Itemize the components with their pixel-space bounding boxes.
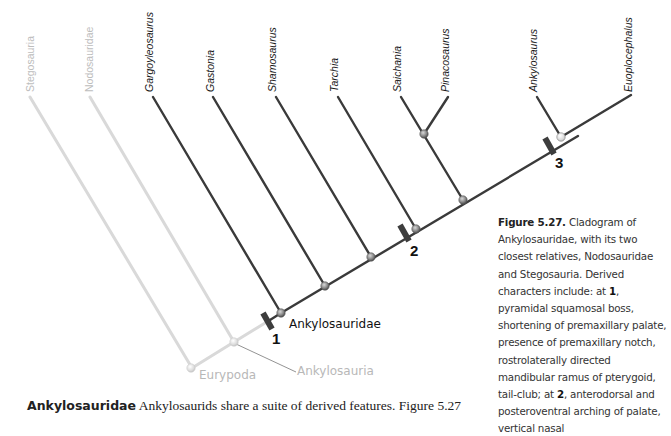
clade-label-ankylosauria: Ankylosauria: [297, 364, 374, 378]
section-heading: Ankylosauridae: [27, 398, 136, 413]
taxon-label: Ankylosaurus: [527, 28, 539, 93]
branch-ankylosaurus-euoplocephalus: [561, 95, 631, 137]
taxon-label: Stegosauria: [24, 36, 36, 92]
taxon-label: Tarchia: [328, 58, 340, 92]
branch-tarchia: [338, 97, 416, 229]
paragraph-text: Ankylosaurids share a suite of derived f…: [136, 398, 461, 413]
node-ankylosaurus-euoplocephalus: [557, 133, 565, 141]
character-number-3: 3: [555, 154, 563, 171]
taxon-label: Gastonia: [204, 50, 216, 92]
branch-ankylosaurus: [537, 97, 561, 137]
character-mark-2: [400, 225, 409, 241]
character-number-1: 1: [272, 330, 280, 347]
node-ankylosauria: [230, 338, 238, 346]
clade-label-ankylosauridae: Ankylosauridae: [289, 317, 381, 331]
character-number-2: 2: [410, 242, 418, 259]
node-3: [367, 253, 375, 261]
branch-stegosauria: [30, 97, 192, 368]
taxon-label: Nodosauridae: [83, 26, 95, 92]
node-ankylosauridae: [277, 309, 285, 317]
character-mark-1: [263, 313, 272, 329]
branch-shamosaurus: [276, 97, 371, 257]
caption-text: Cladogram of Ankylosauridae, with its tw…: [498, 216, 653, 297]
figure-caption: Figure 5.27. Cladogram of Ankylosauridae…: [498, 214, 670, 436]
branch-pinacosaurus: [424, 97, 448, 134]
taxon-label: Shamosaurus: [266, 26, 278, 92]
branch-saichania: [401, 97, 463, 200]
taxon-label: Gargoyleosaurus: [143, 11, 155, 92]
node-saichania-pinacosaurus: [420, 130, 428, 138]
branch-eurypoda-to-ankylosauria: [192, 342, 234, 368]
branch-nodosauridae: [90, 97, 234, 342]
node-4: [412, 225, 420, 233]
branch-gastonia: [213, 97, 325, 286]
branch-gargoyleosaurus: [153, 97, 281, 313]
node-2: [321, 282, 329, 290]
branch-ankylosauria-to-ankylosauridae: [234, 320, 270, 342]
caption-text: , pyramidal squamosal boss, shortening o…: [498, 285, 666, 400]
caption-mark-2: 2: [557, 388, 564, 400]
node-eurypoda: [187, 364, 195, 372]
caption-mark-1: 1: [609, 285, 616, 297]
body-paragraph: Ankylosauridae Ankylosaurids share a sui…: [27, 398, 487, 414]
taxon-label: Euoplocephalus: [622, 17, 634, 92]
taxon-labels: Stegosauria Nodosauridae Gargoyleosaurus…: [24, 11, 634, 93]
node-5: [459, 196, 467, 204]
figure-number: Figure 5.27.: [498, 216, 566, 228]
clade-label-eurypoda: Eurypoda: [199, 368, 256, 382]
taxon-label: Pinacosaurus: [439, 28, 451, 92]
taxon-label: Saichania: [391, 46, 403, 92]
character-mark-3: [545, 138, 554, 154]
